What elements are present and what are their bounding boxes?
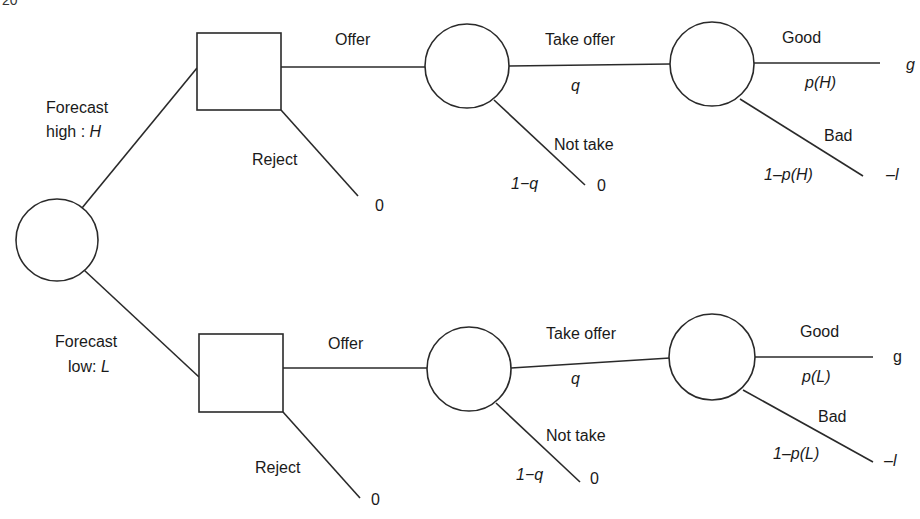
edge-take-offer-low — [511, 358, 670, 368]
not-take-payoff-high: 0 — [597, 177, 606, 194]
not-take-label-high: Not take — [554, 136, 614, 153]
bad-label-low: Bad — [818, 408, 846, 425]
root-chance-node — [16, 199, 98, 281]
good-prob-high: p(H) — [804, 74, 836, 91]
bad-prob-high: 1–p(H) — [764, 166, 813, 183]
decision-node-low — [199, 334, 283, 412]
bad-payoff-high: –l — [885, 166, 899, 183]
not-take-prob-high: 1−q — [511, 175, 538, 192]
chance-node-outcome-low — [669, 314, 755, 400]
take-prob-high: q — [571, 77, 580, 94]
forecast-high-label-line1: Forecast — [46, 99, 109, 116]
forecast-low-label-line1: Forecast — [55, 333, 118, 350]
offer-label-high: Offer — [335, 31, 371, 48]
forecast-high-label-line2: high : H — [46, 123, 102, 140]
edge-reject-low — [283, 412, 360, 498]
edge-take-offer-high — [509, 64, 670, 66]
good-payoff-low: g — [893, 348, 902, 365]
good-label-low: Good — [800, 323, 839, 340]
take-offer-label-low: Take offer — [546, 325, 617, 342]
bad-prob-low: 1–p(L) — [773, 445, 819, 462]
bad-payoff-low: –l — [883, 452, 897, 469]
reject-payoff-high: 0 — [375, 197, 384, 214]
chance-node-response-high — [425, 24, 509, 108]
not-take-label-low: Not take — [546, 427, 606, 444]
chance-node-outcome-high — [670, 22, 754, 106]
decision-tree-diagram: Forecast high : H Offer Reject 0 Take of… — [0, 0, 920, 519]
reject-label-low: Reject — [255, 459, 301, 476]
not-take-payoff-low: 0 — [590, 470, 599, 487]
reject-payoff-low: 0 — [371, 491, 380, 508]
offer-label-low: Offer — [328, 335, 364, 352]
bad-label-high: Bad — [824, 127, 852, 144]
take-prob-low: q — [571, 370, 580, 387]
good-payoff-high: g — [906, 56, 915, 73]
good-label-high: Good — [782, 29, 821, 46]
chance-node-response-low — [427, 327, 511, 411]
good-prob-low: p(L) — [801, 368, 830, 385]
not-take-prob-low: 1−q — [516, 466, 543, 483]
forecast-low-label-line2: low: L — [68, 358, 110, 375]
decision-node-high — [197, 33, 281, 110]
reject-label-high: Reject — [252, 151, 298, 168]
take-offer-label-high: Take offer — [545, 31, 616, 48]
